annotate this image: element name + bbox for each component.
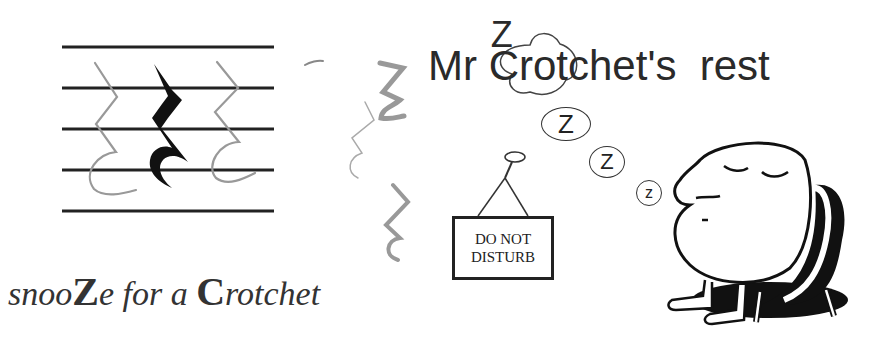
title-rest: rotchet's rest bbox=[519, 42, 770, 89]
page-title: Mr ZCrotchet's rest bbox=[428, 42, 770, 90]
title-bubble-letter: Z bbox=[491, 14, 513, 56]
sign-line-1: DO NOT bbox=[455, 230, 551, 248]
caption-text: e for a bbox=[99, 275, 196, 312]
sleeping-character bbox=[669, 143, 848, 324]
sleep-bubble-letter: Z bbox=[600, 149, 613, 175]
caption-bold-c: C bbox=[196, 269, 225, 314]
caption-text: snoo bbox=[8, 275, 72, 312]
sleep-bubble-small: z bbox=[636, 180, 662, 206]
caption-bold-z: Z bbox=[72, 269, 99, 314]
floating-rests bbox=[305, 61, 408, 260]
sleep-bubble-medium: Z bbox=[589, 146, 625, 178]
music-staff bbox=[62, 47, 274, 211]
sleep-bubble-large: Z bbox=[541, 107, 591, 141]
title-prefix: Mr bbox=[428, 42, 489, 89]
caption: snooZe for a Crotchet bbox=[8, 268, 320, 315]
sleep-bubble-letter: Z bbox=[558, 109, 574, 140]
do-not-disturb-sign: DO NOT DISTURB bbox=[452, 216, 554, 280]
ghost-rest-right bbox=[212, 62, 255, 182]
sleep-bubble-letter: z bbox=[645, 184, 653, 202]
sign-line-2: DISTURB bbox=[455, 248, 551, 266]
caption-text: rotchet bbox=[225, 275, 320, 312]
nail-icon bbox=[505, 152, 525, 162]
